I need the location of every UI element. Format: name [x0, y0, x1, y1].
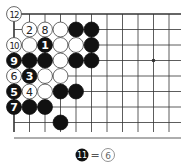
caption-equals: = — [90, 149, 99, 162]
white-stone — [22, 38, 37, 53]
white-stone — [53, 53, 68, 68]
black-stone — [38, 100, 53, 115]
move-number: 5 — [10, 86, 18, 99]
black-stone — [22, 100, 37, 115]
black-stone — [22, 53, 37, 68]
white-stone — [53, 69, 68, 84]
white-stone — [38, 84, 53, 99]
move-number: 8 — [42, 24, 49, 37]
move-number: 7 — [10, 101, 18, 114]
move-number: 2 — [26, 24, 33, 37]
black-stone — [84, 38, 99, 53]
black-stone — [69, 22, 84, 37]
caption-black-label: 11 — [77, 151, 87, 160]
black-stone — [53, 84, 68, 99]
black-stone — [69, 53, 84, 68]
caption-white-label: 6 — [105, 151, 111, 161]
white-stone — [53, 38, 68, 53]
move-number: 12 — [9, 10, 19, 20]
move-number: 1 — [41, 39, 49, 52]
go-board: 1228101963547 — [0, 0, 181, 166]
black-stone — [53, 115, 68, 130]
move-number: 10 — [9, 41, 19, 51]
white-stone — [53, 22, 68, 37]
move-number: 3 — [26, 70, 34, 83]
move-number: 6 — [11, 70, 18, 83]
black-stone — [69, 84, 84, 99]
move-note-caption: 11 = 6 — [64, 147, 124, 163]
move-number: 9 — [10, 55, 18, 68]
black-stone — [84, 53, 99, 68]
move-number: 4 — [26, 86, 33, 99]
black-stone — [84, 22, 99, 37]
white-stone — [69, 38, 84, 53]
star-point — [152, 59, 156, 63]
white-stone — [38, 69, 53, 84]
black-stone — [38, 53, 53, 68]
